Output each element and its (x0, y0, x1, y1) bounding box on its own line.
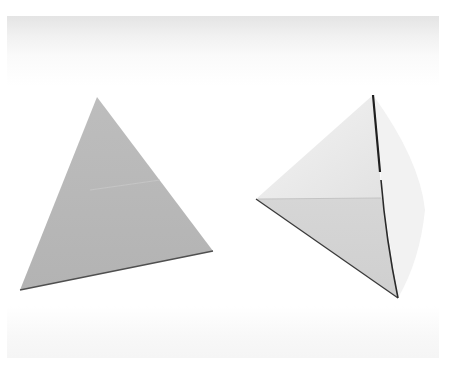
origami-scene (0, 0, 458, 371)
folded-white-triangle (256, 95, 425, 298)
flat-gray-triangle (20, 97, 213, 290)
